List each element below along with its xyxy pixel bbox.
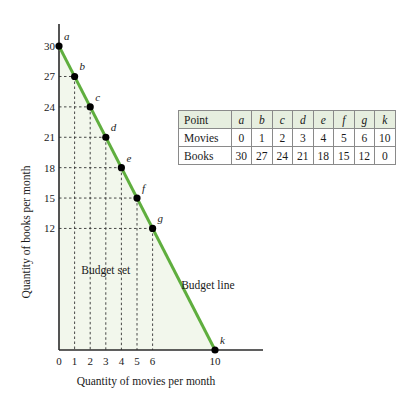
- annotation: Budget line: [181, 279, 234, 292]
- table-cell: 1: [252, 129, 273, 147]
- x-tick: 1: [72, 355, 78, 367]
- x-tick: 4: [119, 355, 125, 367]
- x-tick: 5: [134, 355, 140, 367]
- y-tick: 18: [44, 162, 56, 174]
- y-tick: 12: [44, 222, 55, 234]
- table-cell: 2: [272, 129, 293, 147]
- table-header-cell: f: [334, 111, 355, 129]
- point-label-c: c: [95, 91, 100, 103]
- table-header-cell: d: [293, 111, 314, 129]
- x-tick: 2: [87, 355, 93, 367]
- point-label-g: g: [158, 212, 164, 224]
- y-tick: 24: [44, 101, 56, 113]
- y-tick: 27: [44, 70, 56, 82]
- point-f: [133, 194, 140, 201]
- point-b: [71, 73, 78, 80]
- table-header-cell: g: [354, 111, 375, 129]
- point-label-d: d: [111, 121, 117, 133]
- y-tick: 15: [44, 192, 56, 204]
- table-cell: 0: [231, 129, 252, 147]
- table-cell: 4: [313, 129, 334, 147]
- point-c: [87, 103, 94, 110]
- y-tick: 21: [44, 131, 55, 143]
- point-k: [211, 346, 218, 353]
- table-cell: 27: [252, 147, 273, 165]
- y-tick: 30: [44, 40, 56, 52]
- table-header-cell: a: [231, 111, 252, 129]
- table-header-cell: k: [375, 111, 396, 129]
- point-d: [102, 134, 109, 141]
- table-header-cell: Point: [179, 111, 232, 129]
- table-cell: 3: [293, 129, 314, 147]
- table-row: Movies012345610: [179, 129, 396, 147]
- table-cell: 30: [231, 147, 252, 165]
- table-header-cell: b: [252, 111, 273, 129]
- point-label-k: k: [220, 334, 226, 346]
- table-header-cell: e: [313, 111, 334, 129]
- point-label-f: f: [142, 182, 147, 194]
- x-tick: 0: [56, 355, 62, 367]
- table-row: Books302724211815120: [179, 147, 396, 165]
- annotation: Budget set: [81, 264, 131, 277]
- points-table: PointabcdefgkMovies012345610Books3027242…: [178, 110, 396, 165]
- table-cell: Books: [179, 147, 232, 165]
- point-label-a: a: [64, 30, 70, 42]
- table-cell: 0: [375, 147, 396, 165]
- point-label-b: b: [80, 60, 86, 72]
- table-cell: 10: [375, 129, 396, 147]
- table-cell: 6: [354, 129, 375, 147]
- x-tick-labels: 012345610: [56, 355, 221, 367]
- point-g: [149, 225, 156, 232]
- x-tick: 3: [103, 355, 109, 367]
- x-axis-label: Quantity of movies per month: [77, 375, 216, 388]
- table-cell: 24: [272, 147, 293, 165]
- point-a: [55, 43, 62, 50]
- table-header-row: Pointabcdefgk: [179, 111, 396, 129]
- point-label-e: e: [126, 152, 131, 164]
- point-e: [118, 164, 125, 171]
- table-cell: 12: [354, 147, 375, 165]
- table-cell: 5: [334, 129, 355, 147]
- table-cell: 21: [293, 147, 314, 165]
- table-cell: 15: [334, 147, 355, 165]
- x-tick: 10: [210, 355, 222, 367]
- y-tick-labels: 12151821242730: [44, 40, 56, 234]
- table-header-cell: c: [272, 111, 293, 129]
- y-axis-label: Quantity of books per month: [20, 165, 33, 298]
- x-tick: 6: [150, 355, 156, 367]
- table-cell: 18: [313, 147, 334, 165]
- budget-chart: abcdefgk 012345610 12151821242730 Quanti…: [0, 0, 412, 400]
- table-cell: Movies: [179, 129, 232, 147]
